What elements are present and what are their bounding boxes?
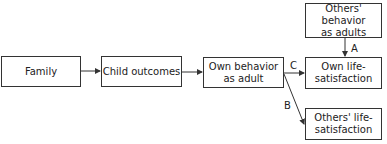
node-label-line1: Others' behavior [306,3,381,27]
arrow-b [284,74,304,124]
node-own-behavior: Own behavior as adult [203,57,284,88]
node-others-behavior: Others' behavior as adults [305,3,382,38]
node-label: Family [25,66,57,78]
node-others-life-satisfaction: Others' life- satisfaction [305,108,382,140]
node-label-line1: Own life- [321,61,365,73]
node-own-life-satisfaction: Own life- satisfaction [305,57,382,89]
node-label-line2: as adult [223,73,263,85]
node-label-line2: satisfaction [315,124,373,136]
node-label-line2: satisfaction [315,73,373,85]
node-label-line2: as adults [321,27,366,39]
edge-label-b: B [284,101,291,111]
edge-label-a: A [351,44,358,54]
edge-label-c: C [290,61,297,71]
node-child-outcomes: Child outcomes [101,56,182,87]
node-label-line1: Others' life- [314,112,372,124]
node-label-line1: Own behavior [209,61,278,73]
node-label: Child outcomes [103,66,181,78]
node-family: Family [1,56,81,87]
